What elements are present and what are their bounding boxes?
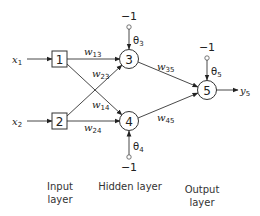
svg-text:θ4: θ4 (133, 141, 144, 154)
input-layer-label: Input layer (40, 180, 80, 206)
input-node-2: 2 (52, 113, 67, 129)
bias-node5: −1 θ5 (199, 41, 222, 80)
input-layer-line2: layer (40, 193, 80, 206)
bias-node3: −1 θ3 (121, 10, 144, 49)
svg-text:5: 5 (203, 84, 211, 98)
svg-text:−1: −1 (199, 41, 215, 54)
input-layer-line1: Input (40, 180, 80, 193)
svg-text:4: 4 (125, 115, 133, 129)
svg-text:−1: −1 (121, 161, 137, 174)
svg-text:x2: x2 (12, 116, 22, 129)
output-layer-line2: layer (180, 196, 224, 209)
output-layer-label: Output layer (180, 183, 224, 209)
input-x2: x2 (12, 116, 52, 129)
svg-text:−1: −1 (121, 10, 137, 23)
hidden-node-3: 3 (120, 50, 139, 69)
hidden-layer-label: Hidden layer (94, 180, 166, 193)
hidden-layer-text: Hidden layer (94, 180, 166, 193)
output-y5: y5 (239, 85, 250, 98)
svg-text:θ5: θ5 (211, 66, 222, 79)
weight-w35: w35 (157, 61, 174, 74)
edge-w45 (138, 93, 198, 118)
svg-text:1: 1 (56, 53, 64, 67)
weight-w13: w13 (84, 46, 101, 59)
output-node-5: 5 (198, 81, 217, 100)
output-layer-line1: Output (180, 183, 224, 196)
svg-text:2: 2 (56, 115, 64, 129)
svg-text:3: 3 (125, 53, 133, 67)
input-node-1: 1 (52, 51, 67, 67)
weight-w24: w24 (84, 122, 102, 135)
svg-text:x1: x1 (12, 54, 22, 67)
hidden-node-4: 4 (120, 112, 139, 131)
bias-node4: θ4 −1 (121, 131, 144, 174)
weight-w45: w45 (157, 112, 174, 125)
input-x1: x1 (12, 54, 52, 67)
weight-w23: w23 (92, 68, 109, 81)
svg-text:θ3: θ3 (133, 35, 144, 48)
